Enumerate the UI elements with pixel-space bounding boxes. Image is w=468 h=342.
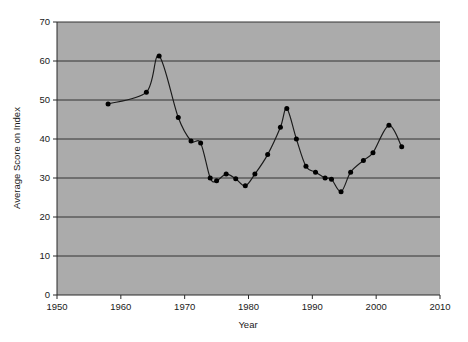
y-tick-label-20: 20 xyxy=(39,211,50,222)
data-point xyxy=(252,172,257,177)
x-tick-label-1990: 1990 xyxy=(302,301,323,312)
x-tick-label-1970: 1970 xyxy=(174,301,195,312)
y-tick-label-10: 10 xyxy=(39,250,50,261)
data-point xyxy=(361,158,366,163)
y-tick-label-30: 30 xyxy=(39,172,50,183)
data-point xyxy=(265,152,270,157)
line-chart: 010203040506070 195019601970198019902000… xyxy=(0,0,468,342)
x-tick-label-2010: 2010 xyxy=(429,301,450,312)
chart-figure: 010203040506070 195019601970198019902000… xyxy=(0,0,468,342)
x-axis-title: Year xyxy=(238,319,257,330)
y-tick-label-50: 50 xyxy=(39,94,50,105)
x-tick-label-1980: 1980 xyxy=(238,301,259,312)
data-point xyxy=(386,123,391,128)
data-point xyxy=(303,164,308,169)
data-point xyxy=(224,172,229,177)
x-tick-label-2000: 2000 xyxy=(366,301,387,312)
x-tick-label-1960: 1960 xyxy=(110,301,131,312)
y-tick-label-70: 70 xyxy=(39,16,50,27)
data-point xyxy=(243,183,248,188)
data-point xyxy=(233,176,238,181)
data-point xyxy=(399,144,404,149)
data-point xyxy=(323,176,328,181)
data-point xyxy=(284,106,289,111)
x-tick-label-1950: 1950 xyxy=(46,301,67,312)
y-axis-ticks xyxy=(53,22,57,295)
plot-area-background xyxy=(57,22,440,295)
data-point xyxy=(348,170,353,175)
data-point xyxy=(106,101,111,106)
x-axis-ticks xyxy=(57,295,440,299)
data-point xyxy=(176,115,181,120)
data-point xyxy=(189,138,194,143)
y-tick-label-60: 60 xyxy=(39,55,50,66)
data-point xyxy=(339,189,344,194)
data-point xyxy=(278,125,283,130)
data-point xyxy=(157,53,162,58)
y-axis-title: Average Score on Index xyxy=(11,107,22,209)
data-point xyxy=(370,150,375,155)
data-point xyxy=(329,177,334,182)
data-point xyxy=(313,170,318,175)
x-axis-tick-labels: 1950196019701980199020002010 xyxy=(46,301,450,312)
data-point xyxy=(294,137,299,142)
y-tick-label-40: 40 xyxy=(39,133,50,144)
data-point xyxy=(214,178,219,183)
y-tick-label-0: 0 xyxy=(45,289,50,300)
data-point xyxy=(198,140,203,145)
y-axis-tick-labels: 010203040506070 xyxy=(39,16,50,300)
data-point xyxy=(208,176,213,181)
data-point xyxy=(144,90,149,95)
